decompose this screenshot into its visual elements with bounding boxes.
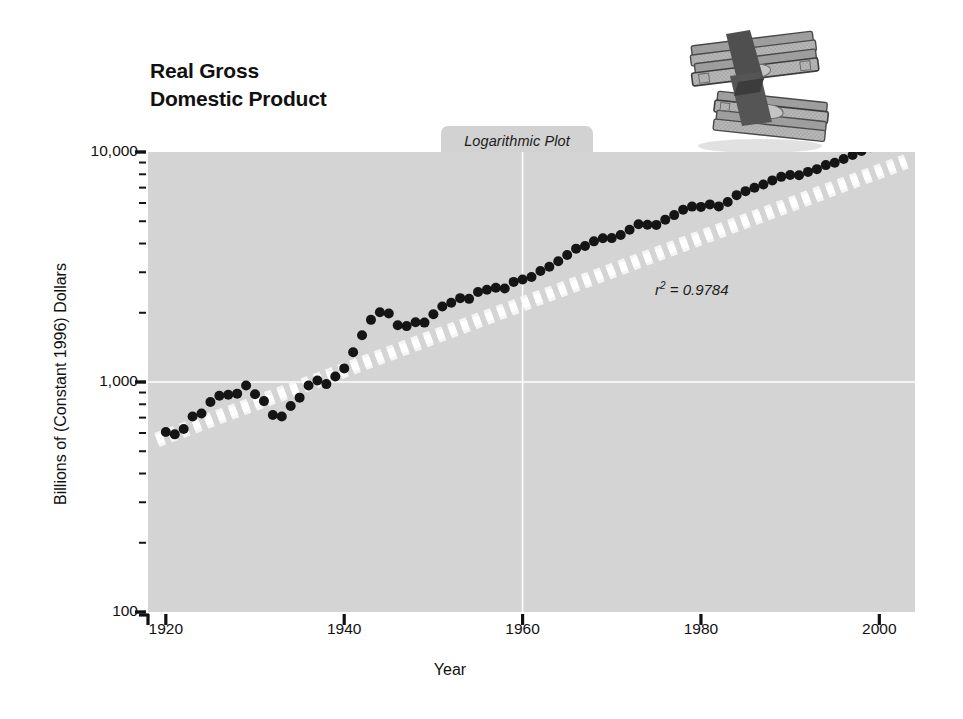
plot-canvas: [148, 152, 915, 612]
r-exponent: 2: [660, 280, 666, 291]
x-tick-label: 1940: [327, 620, 361, 638]
stack-of-money-icon: [668, 18, 848, 158]
x-axis-tick-labels: 19201940196019802000: [0, 620, 963, 648]
chart-title: Real Gross Domestic Product: [150, 57, 470, 114]
gridlines: [148, 152, 915, 612]
plot-area: [148, 152, 915, 612]
y-tick-label: 10,000: [4, 142, 138, 160]
x-tick-label: 2000: [862, 620, 896, 638]
r-squared-annotation: r2 = 0.9784: [655, 281, 729, 298]
x-axis-title: Year: [0, 661, 963, 679]
r-value: = 0.9784: [670, 281, 729, 298]
x-tick-label: 1920: [149, 620, 183, 638]
gdp-chart-figure: Real Gross Domestic Product: [0, 0, 963, 719]
x-tick-label: 1980: [684, 620, 718, 638]
plot-type-label: Logarithmic Plot: [464, 133, 570, 149]
regression-trendline: [157, 161, 906, 439]
y-axis-title: Billions of (Constant 1996) Dollars: [52, 174, 70, 594]
y-tick-label: 100: [4, 602, 138, 620]
y-tick-label: 1,000: [4, 372, 138, 390]
x-axis-title-text: Year: [434, 661, 466, 678]
x-tick-label: 1960: [505, 620, 539, 638]
